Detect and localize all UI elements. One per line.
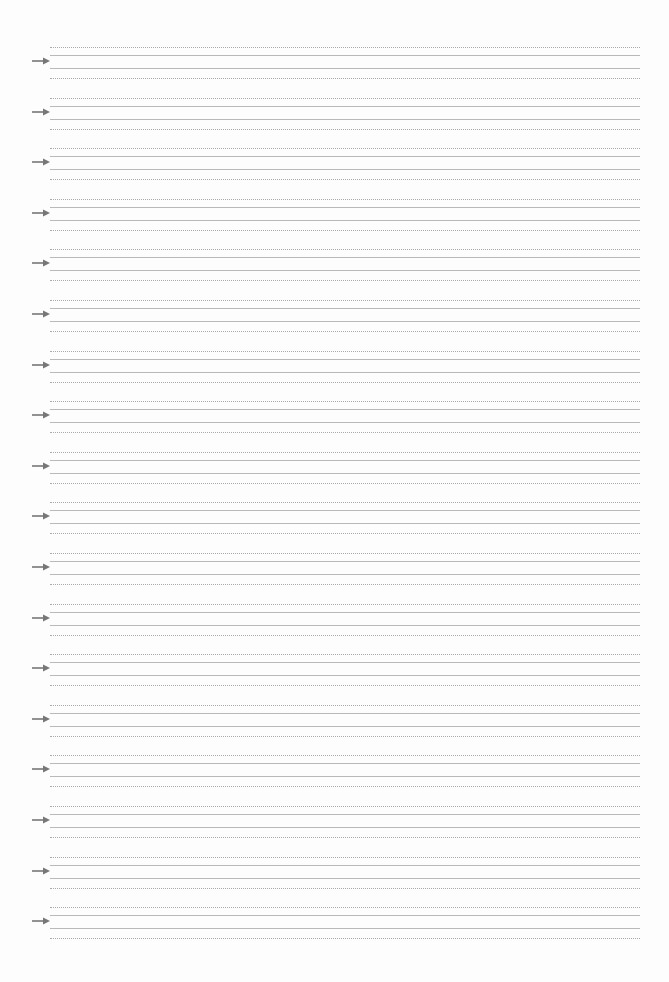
- practice-row: [0, 604, 669, 638]
- lower-base-line: [50, 220, 640, 221]
- practice-row: [0, 300, 669, 334]
- practice-row: [0, 553, 669, 587]
- lower-base-line: [50, 827, 640, 828]
- practice-row: [0, 654, 669, 688]
- right-arrow-icon: [32, 361, 50, 369]
- right-arrow-icon: [32, 462, 50, 470]
- top-guide-line: [50, 351, 640, 352]
- top-guide-line: [50, 806, 640, 807]
- bottom-guide-line: [50, 483, 640, 484]
- practice-row: [0, 452, 669, 486]
- upper-base-line: [50, 359, 640, 360]
- top-guide-line: [50, 249, 640, 250]
- bottom-guide-line: [50, 938, 640, 939]
- right-arrow-icon: [32, 158, 50, 166]
- right-arrow-icon: [32, 512, 50, 520]
- upper-base-line: [50, 257, 640, 258]
- lower-base-line: [50, 878, 640, 879]
- bottom-guide-line: [50, 584, 640, 585]
- practice-row: [0, 351, 669, 385]
- bottom-guide-line: [50, 382, 640, 383]
- top-guide-line: [50, 604, 640, 605]
- practice-row: [0, 502, 669, 536]
- practice-row: [0, 755, 669, 789]
- top-guide-line: [50, 148, 640, 149]
- top-guide-line: [50, 452, 640, 453]
- upper-base-line: [50, 814, 640, 815]
- upper-base-line: [50, 207, 640, 208]
- bottom-guide-line: [50, 230, 640, 231]
- upper-base-line: [50, 865, 640, 866]
- bottom-guide-line: [50, 331, 640, 332]
- top-guide-line: [50, 553, 640, 554]
- upper-base-line: [50, 662, 640, 663]
- bottom-guide-line: [50, 736, 640, 737]
- practice-row: [0, 47, 669, 81]
- bottom-guide-line: [50, 888, 640, 889]
- upper-base-line: [50, 915, 640, 916]
- top-guide-line: [50, 47, 640, 48]
- practice-row: [0, 401, 669, 435]
- right-arrow-icon: [32, 108, 50, 116]
- upper-base-line: [50, 106, 640, 107]
- lower-base-line: [50, 776, 640, 777]
- practice-row: [0, 907, 669, 941]
- top-guide-line: [50, 907, 640, 908]
- bottom-guide-line: [50, 837, 640, 838]
- upper-base-line: [50, 55, 640, 56]
- right-arrow-icon: [32, 209, 50, 217]
- top-guide-line: [50, 401, 640, 402]
- upper-base-line: [50, 763, 640, 764]
- right-arrow-icon: [32, 563, 50, 571]
- top-guide-line: [50, 98, 640, 99]
- lower-base-line: [50, 169, 640, 170]
- top-guide-line: [50, 502, 640, 503]
- top-guide-line: [50, 755, 640, 756]
- right-arrow-icon: [32, 765, 50, 773]
- bottom-guide-line: [50, 179, 640, 180]
- right-arrow-icon: [32, 816, 50, 824]
- lower-base-line: [50, 270, 640, 271]
- top-guide-line: [50, 654, 640, 655]
- lower-base-line: [50, 523, 640, 524]
- practice-row: [0, 705, 669, 739]
- right-arrow-icon: [32, 867, 50, 875]
- bottom-guide-line: [50, 280, 640, 281]
- lower-base-line: [50, 68, 640, 69]
- bottom-guide-line: [50, 786, 640, 787]
- lower-base-line: [50, 574, 640, 575]
- top-guide-line: [50, 857, 640, 858]
- lower-base-line: [50, 675, 640, 676]
- upper-base-line: [50, 713, 640, 714]
- lower-base-line: [50, 422, 640, 423]
- practice-row: [0, 98, 669, 132]
- lower-base-line: [50, 119, 640, 120]
- lower-base-line: [50, 625, 640, 626]
- right-arrow-icon: [32, 917, 50, 925]
- bottom-guide-line: [50, 78, 640, 79]
- bottom-guide-line: [50, 635, 640, 636]
- upper-base-line: [50, 561, 640, 562]
- right-arrow-icon: [32, 411, 50, 419]
- top-guide-line: [50, 199, 640, 200]
- lower-base-line: [50, 321, 640, 322]
- lower-base-line: [50, 473, 640, 474]
- practice-row: [0, 806, 669, 840]
- bottom-guide-line: [50, 129, 640, 130]
- upper-base-line: [50, 510, 640, 511]
- top-guide-line: [50, 300, 640, 301]
- lower-base-line: [50, 928, 640, 929]
- upper-base-line: [50, 612, 640, 613]
- upper-base-line: [50, 409, 640, 410]
- top-guide-line: [50, 705, 640, 706]
- right-arrow-icon: [32, 259, 50, 267]
- lower-base-line: [50, 372, 640, 373]
- bottom-guide-line: [50, 432, 640, 433]
- right-arrow-icon: [32, 715, 50, 723]
- practice-row: [0, 857, 669, 891]
- practice-row: [0, 199, 669, 233]
- upper-base-line: [50, 308, 640, 309]
- bottom-guide-line: [50, 533, 640, 534]
- right-arrow-icon: [32, 664, 50, 672]
- lower-base-line: [50, 726, 640, 727]
